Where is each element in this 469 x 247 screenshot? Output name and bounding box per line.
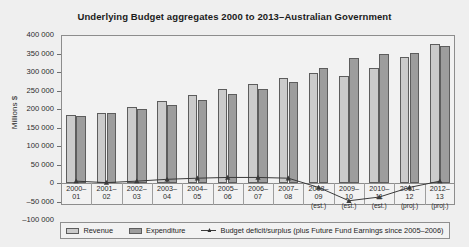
legend-label: Budget deficit/surplus (plus Future Fund… xyxy=(220,226,443,235)
chart-legend: RevenueExpenditureBudget deficit/surplus… xyxy=(60,222,450,239)
y-tick-label: –50 000 xyxy=(2,197,54,206)
y-tick-label: 350 000 xyxy=(2,49,54,58)
y-tick-label: 100 000 xyxy=(2,141,54,150)
legend-label: Revenue xyxy=(83,226,113,235)
line-marker xyxy=(437,179,442,184)
y-tick-label: 300 000 xyxy=(2,67,54,76)
chart-figure: Underlying Budget aggregates 2000 to 201… xyxy=(0,0,469,247)
legend-swatch-icon xyxy=(129,228,142,234)
legend-swatch-icon xyxy=(66,228,79,234)
y-tick-label: –100 000 xyxy=(2,215,54,224)
legend-item[interactable]: Expenditure xyxy=(129,226,185,235)
legend-item[interactable]: Budget deficit/surplus (plus Future Fund… xyxy=(201,226,443,235)
y-tick-label: 0 xyxy=(2,178,54,187)
legend-label: Expenditure xyxy=(146,226,185,235)
y-tick-label: 50 000 xyxy=(2,160,54,169)
deficit-surplus-line xyxy=(61,35,455,205)
y-tick-label: 400 000 xyxy=(2,30,54,39)
chart-title: Underlying Budget aggregates 2000 to 201… xyxy=(0,11,469,22)
y-tick-label: 250 000 xyxy=(2,86,54,95)
y-tick-label: 200 000 xyxy=(2,104,54,113)
y-tick-label: 150 000 xyxy=(2,123,54,132)
legend-line-marker-icon xyxy=(201,227,216,234)
legend-item[interactable]: Revenue xyxy=(66,226,113,235)
